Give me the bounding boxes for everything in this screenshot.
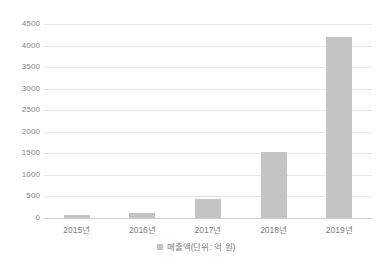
x-axis-tick-labels: 2015년2016년2017년2018년2019년 bbox=[44, 223, 372, 239]
chart-legend: 매출액(단위: 억 원) bbox=[0, 243, 392, 252]
y-axis-tick-label: 2000 bbox=[22, 128, 40, 136]
legend-label: 매출액(단위: 억 원) bbox=[167, 243, 236, 252]
y-axis-tick-label: 2500 bbox=[22, 106, 40, 114]
y-axis-tick-label: 3500 bbox=[22, 63, 40, 71]
bar bbox=[261, 152, 287, 218]
y-axis-tick-label: 4000 bbox=[22, 42, 40, 50]
bar bbox=[64, 215, 90, 218]
bar-chart: 050010001500200025003000350040004500 201… bbox=[0, 0, 392, 271]
x-axis-tick-label: 2016년 bbox=[129, 223, 156, 237]
y-axis-tick-label: 1000 bbox=[22, 171, 40, 179]
bar bbox=[326, 37, 352, 218]
y-axis-tick-labels: 050010001500200025003000350040004500 bbox=[0, 18, 40, 224]
x-axis-tick-label: 2018년 bbox=[260, 223, 287, 237]
y-axis-tick-label: 3000 bbox=[22, 85, 40, 93]
bar bbox=[129, 213, 155, 218]
y-axis-tick-label: 1500 bbox=[22, 149, 40, 157]
bars-layer bbox=[44, 18, 372, 224]
y-axis-tick-label: 4500 bbox=[22, 20, 40, 28]
legend-swatch-icon bbox=[157, 244, 163, 250]
y-axis-tick-label: 500 bbox=[26, 192, 40, 200]
x-axis-tick-label: 2017년 bbox=[195, 223, 222, 237]
x-axis-tick-label: 2019년 bbox=[326, 223, 353, 237]
x-axis-tick-label: 2015년 bbox=[63, 223, 90, 237]
bar bbox=[195, 199, 221, 218]
plot-area bbox=[44, 18, 372, 224]
y-axis-tick-label: 0 bbox=[35, 214, 40, 222]
